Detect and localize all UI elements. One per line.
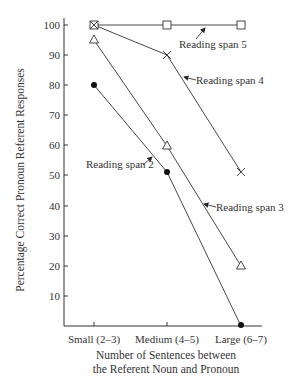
y-tick-50: 50 — [49, 169, 61, 181]
span3-arrow-icon — [204, 204, 216, 207]
x-label-small: Small (2–3) — [68, 333, 121, 346]
y-tick-60: 60 — [49, 139, 61, 151]
y-tick-40: 40 — [49, 200, 61, 212]
x-axis-title-line2: the Referent Noun and Pronoun — [93, 363, 240, 375]
y-axis-title: Percentage Correct Pronoun Referent Resp… — [14, 68, 27, 292]
x-tick-labels: Small (2–3) Medium (4–5) Large (6–7) — [68, 333, 267, 346]
dot-marker-icon — [91, 82, 97, 88]
y-tick-10: 10 — [49, 290, 61, 302]
y-tick-70: 70 — [49, 109, 61, 121]
y-tick-labels: 100 90 80 70 60 50 40 30 20 10 — [44, 19, 61, 302]
y-tick-80: 80 — [49, 79, 61, 91]
triangle-marker-icon — [237, 261, 246, 269]
y-tick-30: 30 — [49, 230, 61, 242]
line-chart: 100 90 80 70 60 50 40 30 20 10 Small (2–… — [0, 0, 289, 378]
x-axis-title-line1: Number of Sentences between — [96, 349, 236, 361]
x-label-large: Large (6–7) — [215, 333, 267, 346]
x-label-medium: Medium (4–5) — [135, 333, 199, 346]
dot-marker-icon — [238, 322, 244, 328]
square-marker-icon — [237, 21, 245, 29]
x-marker-icon — [163, 51, 171, 59]
y-tick-100: 100 — [44, 19, 61, 31]
triangle-marker-icon — [90, 35, 99, 43]
annotation-span5: Reading span 5 — [179, 38, 247, 50]
y-tick-90: 90 — [49, 49, 61, 61]
annotation-span4: Reading span 4 — [196, 74, 264, 86]
y-tick-20: 20 — [49, 260, 61, 272]
y-ticks — [64, 25, 68, 296]
series-span3-markers — [90, 35, 246, 269]
annotation-span2: Reading span 2 — [86, 158, 154, 170]
span4-arrow-icon — [184, 77, 196, 80]
annotation-span3: Reading span 3 — [216, 201, 284, 213]
square-marker-icon — [163, 21, 171, 29]
x-marker-icon — [237, 168, 245, 176]
dot-marker-icon — [164, 169, 170, 175]
x-ticks — [94, 322, 241, 326]
